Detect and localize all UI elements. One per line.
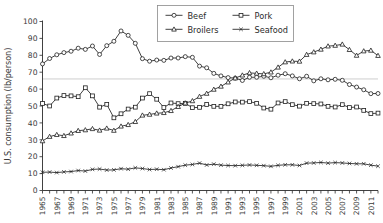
y-tick-label: 100 xyxy=(23,17,38,26)
series-broilers xyxy=(40,42,380,143)
x-tick-label: 1985 xyxy=(181,196,190,215)
legend-label: Beef xyxy=(188,11,208,21)
x-tick-label: 1967 xyxy=(53,196,62,215)
x-tick-label: 1991 xyxy=(224,196,233,215)
y-tick-label: 60 xyxy=(28,85,38,94)
x-tick-label: 1965 xyxy=(38,196,47,215)
x-tick-label: 1993 xyxy=(238,196,247,215)
x-tick-label: 2001 xyxy=(295,196,304,215)
legend-label: Pork xyxy=(255,11,273,21)
series-seafood xyxy=(41,161,380,175)
y-axis-title: U.S. consumption (lb/person) xyxy=(4,48,13,165)
y-tick-label: 90 xyxy=(28,34,38,43)
x-tick-label: 1977 xyxy=(124,196,133,215)
x-tick-label: 1997 xyxy=(267,196,276,215)
y-tick-label: 20 xyxy=(28,152,38,161)
x-tick-label: 2007 xyxy=(338,196,347,215)
y-tick-label: 10 xyxy=(28,169,38,178)
series-pork xyxy=(41,86,380,120)
x-tick-label: 1971 xyxy=(81,196,90,215)
x-tick-label: 1975 xyxy=(110,196,119,215)
y-tick-label: 0 xyxy=(33,186,38,195)
x-tick-label: 1989 xyxy=(210,196,219,215)
x-tick-label: 1979 xyxy=(138,196,147,215)
y-tick-label: 70 xyxy=(28,68,38,77)
x-tick-label: 1969 xyxy=(67,196,76,215)
legend-label: Seafood xyxy=(255,25,288,35)
y-tick-label: 40 xyxy=(28,119,38,128)
x-tick-label: 1987 xyxy=(195,196,204,215)
x-tick-label: 1995 xyxy=(252,196,261,215)
legend-box xyxy=(158,6,294,42)
x-tick-label: 1981 xyxy=(153,196,162,215)
y-tick-label: 80 xyxy=(28,51,38,60)
y-tick-label: 50 xyxy=(28,102,38,111)
x-tick-label: 2005 xyxy=(324,196,333,215)
series-line-pork xyxy=(43,88,379,118)
x-tick-label: 2003 xyxy=(310,196,319,215)
x-tick-label: 1999 xyxy=(281,196,290,215)
legend-label: Broilers xyxy=(188,25,219,35)
y-tick-label: 30 xyxy=(28,136,38,145)
x-tick-label: 2011 xyxy=(367,196,376,215)
consumption-line-chart: 0102030405060708090100U.S. consumption (… xyxy=(0,0,383,223)
x-tick-label: 1973 xyxy=(95,196,104,215)
x-tick-label: 2009 xyxy=(352,196,361,215)
chart-svg: 0102030405060708090100U.S. consumption (… xyxy=(0,0,383,223)
x-tick-label: 1983 xyxy=(167,196,176,215)
